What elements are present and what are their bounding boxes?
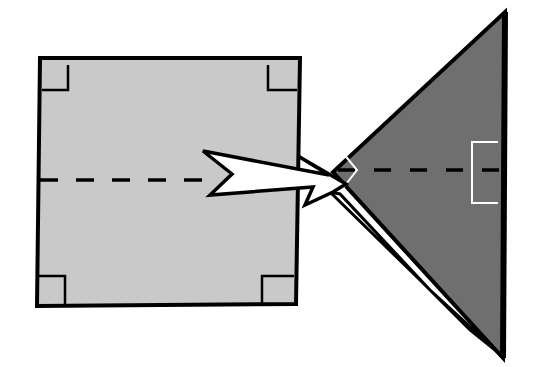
triangle-fill <box>333 12 505 358</box>
fold-diagram <box>0 0 542 367</box>
triangle-shape <box>333 12 505 358</box>
triangle-right-edge <box>503 12 505 358</box>
